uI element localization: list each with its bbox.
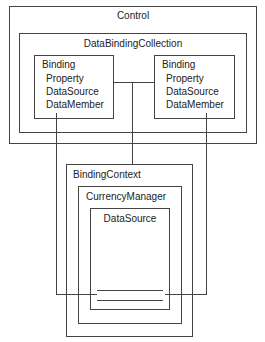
bindingcontext-label: BindingContext <box>73 169 141 181</box>
currencymanager-label: CurrencyManager <box>86 191 166 203</box>
binding-left-datamember: DataMember <box>46 99 104 111</box>
databindingcollection-label: DataBindingCollection <box>19 38 247 50</box>
datamember-left-line <box>56 113 57 295</box>
binding-connector-vertical <box>132 82 133 164</box>
datamember-right-line <box>206 113 207 295</box>
binding-connector-horizontal <box>114 82 154 83</box>
binding-left-title: Binding <box>42 59 75 71</box>
datasource-label: DataSource <box>90 213 170 225</box>
binding-right-datasource: DataSource <box>166 86 219 98</box>
binding-left-property: Property <box>46 73 84 85</box>
binding-right-title: Binding <box>162 59 195 71</box>
record-line-bottom <box>97 300 163 301</box>
binding-left-datasource: DataSource <box>46 86 99 98</box>
binding-right-datamember: DataMember <box>166 99 224 111</box>
binding-right-property: Property <box>166 73 204 85</box>
control-label: Control <box>9 10 257 22</box>
record-line-top <box>97 290 163 291</box>
